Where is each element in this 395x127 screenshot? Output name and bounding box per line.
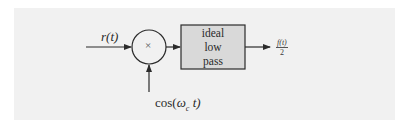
input-signal-label: r(t) [101, 29, 118, 45]
output-numerator: f(t) [276, 38, 288, 48]
filter-line-low: low [204, 40, 221, 54]
filter-line-ideal: ideal [202, 26, 224, 40]
multiply-icon: × [145, 39, 151, 51]
carrier-prefix: cos( [155, 95, 177, 110]
carrier-suffix: t) [189, 95, 200, 110]
output-signal-label: f(t) 2 [276, 38, 288, 57]
output-denominator: 2 [280, 48, 284, 57]
filter-line-pass: pass [203, 54, 223, 68]
carrier-omega: ω [177, 95, 186, 110]
filter-block-label: ideal low pass [181, 25, 245, 69]
carrier-signal-label: cos(ωc t) [155, 95, 201, 113]
